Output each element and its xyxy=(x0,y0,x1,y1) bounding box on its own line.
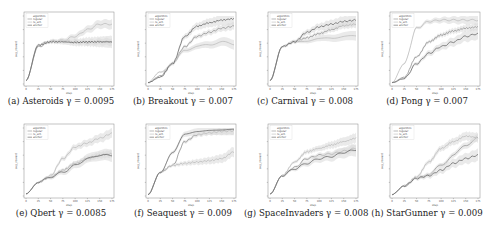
x-tick-label: 25 xyxy=(37,88,41,91)
x-tick-label: 50 xyxy=(49,88,53,91)
x-tick-label: 175 xyxy=(476,88,481,91)
x-tick-label: 150 xyxy=(219,200,224,203)
x-tick-label: 0 xyxy=(269,200,271,203)
line-chart: 0255075100125150175stepavg_rewardalgorit… xyxy=(244,0,366,96)
subfigure-caption: (d) Pong γ = 0.007 xyxy=(366,96,488,106)
chart-legend: algorithmregularrs_schanchor xyxy=(26,14,48,28)
x-tick-label: 150 xyxy=(97,88,102,91)
x-tick-label: 50 xyxy=(415,200,419,203)
x-tick-label: 0 xyxy=(25,200,27,203)
chart-legend: algorithmregularrs_schanchor xyxy=(270,126,292,140)
y-axis-label: avg_reward xyxy=(14,153,18,169)
y-axis-label: avg_reward xyxy=(258,153,262,169)
x-tick-label: 50 xyxy=(171,200,175,203)
x-tick-label: 25 xyxy=(159,200,163,203)
x-tick-label: 50 xyxy=(49,200,53,203)
legend-entry-anchor: anchor xyxy=(399,24,409,27)
y-axis-label: avg_reward xyxy=(380,153,384,169)
x-tick-label: 75 xyxy=(305,88,309,91)
legend-entry-anchor: anchor xyxy=(33,24,43,27)
x-axis-label: step xyxy=(188,203,194,207)
x-tick-label: 50 xyxy=(293,200,297,203)
subfigure-caption: (e) Qbert γ = 0.0085 xyxy=(0,208,122,218)
y-axis-label: avg_reward xyxy=(14,41,18,57)
legend-entry-anchor: anchor xyxy=(155,136,165,139)
x-tick-label: 75 xyxy=(61,88,65,91)
x-tick-label: 125 xyxy=(207,200,212,203)
x-tick-label: 125 xyxy=(85,88,90,91)
x-tick-label: 25 xyxy=(403,200,407,203)
x-tick-label: 125 xyxy=(329,88,334,91)
subfigure-caption: (f) Seaquest γ = 0.009 xyxy=(122,208,244,218)
line-chart: 0255075100125150175stepavg_rewardalgorit… xyxy=(0,0,122,96)
legend-entry-anchor: anchor xyxy=(33,136,43,139)
x-tick-label: 125 xyxy=(451,200,456,203)
x-tick-label: 175 xyxy=(110,88,115,91)
y-axis-label: avg_reward xyxy=(136,41,140,57)
x-axis-label: step xyxy=(310,203,316,207)
x-tick-label: 50 xyxy=(293,88,297,91)
x-tick-label: 75 xyxy=(427,200,431,203)
x-tick-label: 0 xyxy=(269,88,271,91)
x-tick-label: 0 xyxy=(391,200,393,203)
x-tick-label: 0 xyxy=(147,88,149,91)
x-tick-label: 75 xyxy=(427,88,431,91)
subfigure-caption: (b) Breakout γ = 0.007 xyxy=(122,96,244,106)
legend-entry-anchor: anchor xyxy=(155,24,165,27)
chart-panel-qbert: 0255075100125150175stepavg_rewardalgorit… xyxy=(0,112,122,224)
x-axis-label: step xyxy=(66,203,72,207)
x-tick-label: 100 xyxy=(317,88,322,91)
chart-panel-pong: 0255075100125150175stepavg_rewardalgorit… xyxy=(366,0,488,112)
x-tick-label: 125 xyxy=(207,88,212,91)
x-tick-label: 0 xyxy=(391,88,393,91)
figure-grid: 0255075100125150175stepavg_rewardalgorit… xyxy=(0,0,489,225)
x-tick-label: 25 xyxy=(37,200,41,203)
legend-entry-anchor: anchor xyxy=(277,24,287,27)
x-tick-label: 50 xyxy=(415,88,419,91)
x-tick-label: 100 xyxy=(73,88,78,91)
x-tick-label: 75 xyxy=(61,200,65,203)
x-tick-label: 175 xyxy=(232,88,237,91)
line-chart: 0255075100125150175stepavg_rewardalgorit… xyxy=(0,112,122,208)
chart-legend: algorithmregularrs_schanchor xyxy=(392,14,414,28)
chart-legend: algorithmregularrs_schanchor xyxy=(148,126,170,140)
x-tick-label: 150 xyxy=(97,200,102,203)
x-tick-label: 75 xyxy=(183,88,187,91)
chart-panel-breakout: 0255075100125150175stepavg_rewardalgorit… xyxy=(122,0,244,112)
chart-panel-asteroids: 0255075100125150175stepavg_rewardalgorit… xyxy=(0,0,122,112)
x-tick-label: 100 xyxy=(317,200,322,203)
line-chart: 0255075100125150175stepavg_rewardalgorit… xyxy=(366,112,488,208)
x-tick-label: 175 xyxy=(110,200,115,203)
x-tick-label: 50 xyxy=(171,88,175,91)
x-tick-label: 0 xyxy=(25,88,27,91)
subfigure-caption: (h) StarGunner γ = 0.009 xyxy=(366,208,488,218)
line-chart: 0255075100125150175stepavg_rewardalgorit… xyxy=(244,112,366,208)
x-tick-label: 150 xyxy=(341,88,346,91)
y-axis-label: avg_reward xyxy=(136,153,140,169)
chart-panel-seaquest: 0255075100125150175stepavg_rewardalgorit… xyxy=(122,112,244,224)
x-tick-label: 75 xyxy=(183,200,187,203)
x-tick-label: 175 xyxy=(354,88,359,91)
x-tick-label: 25 xyxy=(281,88,285,91)
x-tick-label: 175 xyxy=(476,200,481,203)
x-tick-label: 25 xyxy=(403,88,407,91)
y-axis-label: avg_reward xyxy=(258,41,262,57)
x-tick-label: 100 xyxy=(439,200,444,203)
x-tick-label: 0 xyxy=(147,200,149,203)
x-tick-label: 100 xyxy=(195,200,200,203)
y-axis-label: avg_reward xyxy=(380,41,384,57)
x-tick-label: 25 xyxy=(281,200,285,203)
chart-panel-spaceinvaders: 0255075100125150175stepavg_rewardalgorit… xyxy=(244,112,366,224)
x-tick-label: 150 xyxy=(219,88,224,91)
chart-panel-stargunner: 0255075100125150175stepavg_rewardalgorit… xyxy=(366,112,488,224)
x-tick-label: 125 xyxy=(85,200,90,203)
x-axis-label: step xyxy=(188,91,194,95)
chart-legend: algorithmregularrs_schanchor xyxy=(392,126,414,140)
subfigure-caption: (a) Asteroids γ = 0.0095 xyxy=(0,96,122,106)
x-tick-label: 100 xyxy=(73,200,78,203)
chart-legend: algorithmregularrs_schanchor xyxy=(148,14,170,28)
line-chart: 0255075100125150175stepavg_rewardalgorit… xyxy=(122,112,244,208)
x-axis-label: step xyxy=(432,91,438,95)
x-tick-label: 25 xyxy=(159,88,163,91)
chart-panel-carnival: 0255075100125150175stepavg_rewardalgorit… xyxy=(244,0,366,112)
